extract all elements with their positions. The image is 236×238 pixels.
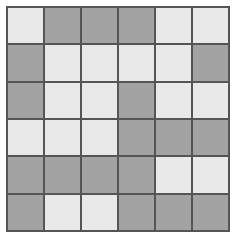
grid-cell-r1-c5 bbox=[193, 45, 228, 80]
grid-cell-r0-c4 bbox=[156, 8, 191, 43]
grid-cell-r1-c2 bbox=[82, 45, 117, 80]
grid-cell-r3-c5 bbox=[193, 120, 228, 155]
grid-cell-r2-c2 bbox=[82, 83, 117, 118]
grid-cell-r5-c3 bbox=[119, 195, 154, 230]
grid-cell-r4-c2 bbox=[82, 157, 117, 192]
grid-cell-r5-c0 bbox=[8, 195, 43, 230]
grid-cell-r2-c4 bbox=[156, 83, 191, 118]
grid-cell-r4-c5 bbox=[193, 157, 228, 192]
grid-cell-r5-c2 bbox=[82, 195, 117, 230]
grid-cell-r2-c5 bbox=[193, 83, 228, 118]
grid-cell-r2-c1 bbox=[45, 83, 80, 118]
grid-cell-r5-c5 bbox=[193, 195, 228, 230]
grid-cell-r1-c0 bbox=[8, 45, 43, 80]
grid-cell-r0-c5 bbox=[193, 8, 228, 43]
grid-cell-r3-c1 bbox=[45, 120, 80, 155]
grid-cell-r3-c2 bbox=[82, 120, 117, 155]
grid-cell-r0-c2 bbox=[82, 8, 117, 43]
grid-cell-r2-c3 bbox=[119, 83, 154, 118]
grid-cell-r4-c3 bbox=[119, 157, 154, 192]
grid-figure bbox=[0, 0, 236, 238]
grid-cell-r4-c4 bbox=[156, 157, 191, 192]
grid-cell-r2-c0 bbox=[8, 83, 43, 118]
grid-cell-r0-c3 bbox=[119, 8, 154, 43]
grid-cell-r3-c4 bbox=[156, 120, 191, 155]
grid-cell-r5-c1 bbox=[45, 195, 80, 230]
grid-board bbox=[6, 6, 230, 232]
grid-cell-r1-c3 bbox=[119, 45, 154, 80]
grid-cell-r3-c0 bbox=[8, 120, 43, 155]
grid-cell-r4-c0 bbox=[8, 157, 43, 192]
grid-cell-r1-c4 bbox=[156, 45, 191, 80]
grid-cell-r1-c1 bbox=[45, 45, 80, 80]
grid-cell-r4-c1 bbox=[45, 157, 80, 192]
grid-cell-r5-c4 bbox=[156, 195, 191, 230]
grid-cell-r0-c1 bbox=[45, 8, 80, 43]
grid-cell-r3-c3 bbox=[119, 120, 154, 155]
grid-cell-r0-c0 bbox=[8, 8, 43, 43]
